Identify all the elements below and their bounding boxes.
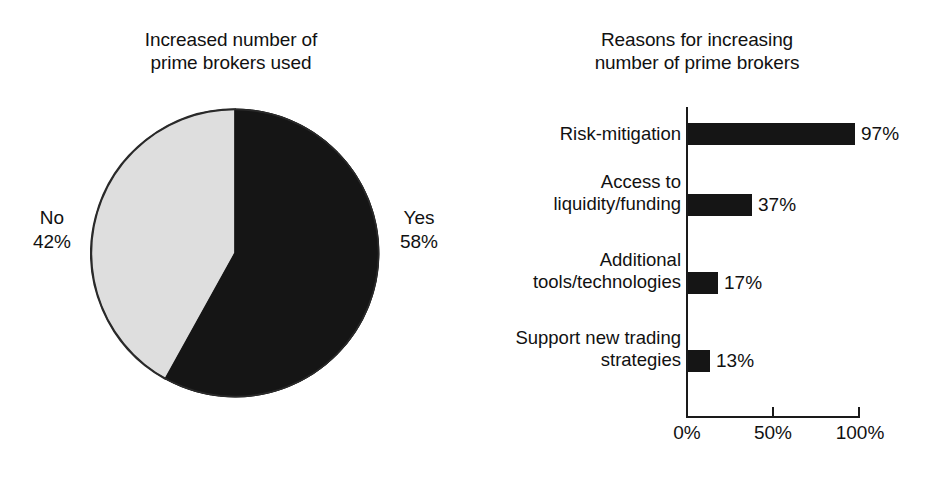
bar-category-label: Additional tools/technologies xyxy=(456,249,681,293)
figure-root: Increased number of prime brokers used N… xyxy=(0,0,925,478)
bar-rect[interactable] xyxy=(688,350,710,372)
bar-value-label: 37% xyxy=(758,194,796,216)
pie-chart-panel: Increased number of prime brokers used N… xyxy=(0,0,462,478)
bar-rect[interactable] xyxy=(688,123,855,145)
bar-row: Access to liquidity/funding 37% xyxy=(462,194,925,216)
bar-category-label: Access to liquidity/funding xyxy=(456,171,681,215)
bar-category-line: Support new trading xyxy=(456,327,681,349)
pie-label-yes-value: 58% xyxy=(384,230,454,254)
bar-row: Risk-mitigation 97% xyxy=(462,123,925,145)
x-tick-100 xyxy=(858,407,860,416)
bar-rect[interactable] xyxy=(688,272,718,294)
bar-plot-area: 0% 50% 100% Risk-mitigation 97% Access t… xyxy=(462,0,925,478)
pie-title-line-1: Increased number of xyxy=(51,28,411,51)
bar-row: Support new trading strategies 13% xyxy=(462,350,925,372)
pie-label-no-name: No xyxy=(18,206,86,230)
bar-value-label: 13% xyxy=(716,350,754,372)
bar-category-line: liquidity/funding xyxy=(456,193,681,215)
x-axis-line xyxy=(686,416,860,418)
pie-title-line-2: prime brokers used xyxy=(51,51,411,74)
pie-chart-title: Increased number of prime brokers used xyxy=(51,28,411,74)
pie-graphic xyxy=(90,108,380,398)
bar-rect[interactable] xyxy=(688,194,752,216)
bar-category-label: Risk-mitigation xyxy=(456,123,681,145)
bar-chart-panel: Reasons for increasing number of prime b… xyxy=(462,0,925,478)
bar-category-line: Access to xyxy=(456,171,681,193)
bar-value-label: 17% xyxy=(724,272,762,294)
pie-svg xyxy=(90,108,380,398)
bar-value-label: 97% xyxy=(861,123,899,145)
bar-category-line: tools/technologies xyxy=(456,271,681,293)
bar-category-label: Support new trading strategies xyxy=(456,327,681,371)
x-tick-label-0: 0% xyxy=(652,422,722,444)
pie-label-yes: Yes 58% xyxy=(384,206,454,254)
x-tick-label-100: 100% xyxy=(825,422,895,444)
bar-category-line: Additional xyxy=(456,249,681,271)
bar-row: Additional tools/technologies 17% xyxy=(462,272,925,294)
x-tick-50 xyxy=(772,407,774,416)
pie-label-yes-name: Yes xyxy=(384,206,454,230)
pie-label-no-value: 42% xyxy=(18,230,86,254)
x-tick-0 xyxy=(686,407,688,416)
pie-label-no: No 42% xyxy=(18,206,86,254)
bar-category-line: Risk-mitigation xyxy=(456,123,681,145)
bar-category-line: strategies xyxy=(456,349,681,371)
x-tick-label-50: 50% xyxy=(738,422,808,444)
